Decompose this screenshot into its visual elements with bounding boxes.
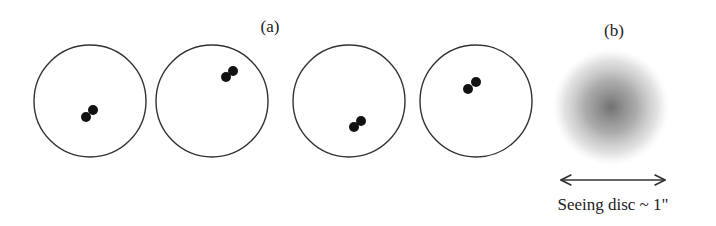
- speckle-frame-2: [156, 45, 268, 157]
- speckle-dot: [88, 105, 98, 115]
- seeing-disc-caption: Seeing disc ~ 1": [557, 195, 668, 214]
- speckle-frames: [34, 45, 532, 157]
- speckle-dot: [471, 77, 481, 87]
- speckle-frame-1: [34, 45, 146, 157]
- speckle-dot: [228, 66, 238, 76]
- speckle-frame-3: [293, 45, 405, 157]
- seeing-disc-blur: [553, 49, 669, 165]
- speckle-dot: [356, 116, 366, 126]
- figure: (a) (b) Seeing disc ~ 1": [0, 0, 716, 226]
- speckle-dot: [463, 84, 473, 94]
- speckle-frame-4: [420, 45, 532, 157]
- figure-canvas: (a) (b) Seeing disc ~ 1": [0, 0, 716, 226]
- panel-a-label: (a): [261, 17, 280, 36]
- panel-b-label: (b): [604, 21, 624, 40]
